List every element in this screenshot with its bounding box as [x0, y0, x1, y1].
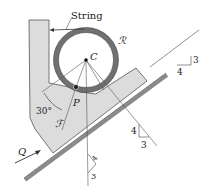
diagram: String ℛ C P 30° ℱ Q 3 4 4 3 4 3 [0, 0, 207, 193]
label-ring: ℛ [118, 35, 127, 46]
label-force: Q [18, 146, 26, 157]
center-point [84, 58, 88, 62]
label-angle: 30° [36, 106, 52, 116]
slope-triangle-incline [150, 30, 199, 67]
label-pin: P [72, 97, 80, 108]
incline-rise: 3 [193, 55, 199, 65]
line-run: 3 [141, 140, 147, 150]
vertical-run: 3 [91, 172, 96, 181]
line-rise: 4 [131, 126, 137, 136]
pin-p [73, 84, 78, 89]
label-center: C [90, 51, 98, 62]
label-string: String [71, 10, 103, 21]
vertical-rise: 4 [90, 154, 99, 163]
incline-run: 4 [177, 67, 183, 77]
